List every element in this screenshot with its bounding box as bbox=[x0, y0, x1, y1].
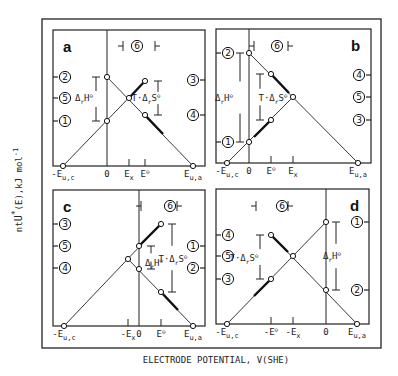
data-point bbox=[355, 160, 360, 165]
data-point bbox=[104, 74, 109, 79]
panel-letter: a bbox=[63, 38, 72, 55]
math-label: -Eu,c bbox=[215, 166, 239, 179]
highlighted-segment bbox=[254, 279, 271, 296]
data-point bbox=[224, 160, 229, 165]
circled-number-label: 4 bbox=[190, 110, 196, 120]
data-point bbox=[158, 289, 163, 294]
data-point bbox=[290, 253, 295, 258]
highlighted-segment bbox=[271, 74, 289, 93]
math-label: -Eu,c bbox=[52, 329, 76, 342]
data-point bbox=[323, 219, 328, 224]
panel-letter: b bbox=[351, 37, 360, 54]
data-point bbox=[246, 139, 251, 144]
math-label: E⊖ bbox=[156, 328, 165, 340]
data-point bbox=[268, 71, 273, 76]
math-label: 0 bbox=[136, 329, 141, 339]
math-label: ΔrH⊖ bbox=[75, 92, 93, 105]
circled-number-label: 3 bbox=[225, 274, 231, 284]
data-point bbox=[190, 163, 195, 168]
circled-number-label: 4 bbox=[62, 263, 68, 273]
data-point bbox=[61, 323, 66, 328]
circled-number-label: 1 bbox=[190, 241, 196, 251]
y-axis-label: ntU*(E),kJ mol-1 bbox=[11, 148, 24, 232]
data-point bbox=[60, 163, 65, 168]
outer-frame bbox=[42, 19, 381, 348]
math-label: 0 bbox=[246, 166, 251, 176]
highlighted-segment bbox=[271, 235, 288, 252]
data-point bbox=[136, 243, 141, 248]
circled-number-label: 2 bbox=[190, 263, 196, 273]
panel-a: a625134ΔrH⊖T·ΔrS⊖-Eu,c0ExE⊖Eu,a bbox=[51, 30, 205, 182]
math-label: Eu,a bbox=[184, 169, 202, 182]
circled-number-label: 4 bbox=[225, 230, 231, 240]
math-label: -Eu,c bbox=[215, 327, 239, 340]
potential-line bbox=[249, 53, 358, 163]
math-label: ΔrH⊖ bbox=[215, 92, 233, 105]
circled-number-label: 1 bbox=[225, 137, 231, 147]
math-label: T·ΔrS⊖ bbox=[132, 92, 161, 105]
math-label: ΔrH⊖ bbox=[323, 250, 341, 263]
circled-number-label: 1 bbox=[354, 217, 360, 227]
circled-number-label: 4 bbox=[356, 70, 362, 80]
panels-group: a625134ΔrH⊖T·ΔrS⊖-Eu,c0ExE⊖Eu,ab621453Δr… bbox=[51, 29, 371, 342]
data-point bbox=[290, 94, 295, 99]
math-label: Eu,a bbox=[349, 166, 367, 179]
x-axis-label: ELECTRODE POTENTIAL, V(SHE) bbox=[143, 355, 289, 365]
circled-number-label: 2 bbox=[225, 48, 231, 58]
data-point bbox=[268, 276, 273, 281]
circled-number-label: 6 bbox=[167, 201, 173, 211]
circled-number-label: 3 bbox=[190, 75, 196, 85]
math-label: Eu,a bbox=[184, 329, 202, 342]
math-label: -Ex bbox=[120, 329, 135, 342]
math-label: Ex bbox=[124, 169, 134, 182]
data-point bbox=[158, 221, 163, 226]
math-label: 0 bbox=[323, 327, 328, 337]
data-point bbox=[268, 117, 273, 122]
data-point bbox=[104, 118, 109, 123]
circled-number-label: 3 bbox=[356, 115, 362, 125]
math-label: -Ex bbox=[285, 327, 300, 340]
data-point bbox=[323, 287, 328, 292]
math-label: T·ΔrS⊖ bbox=[159, 253, 188, 266]
panel-letter: c bbox=[63, 198, 71, 215]
circled-number-label: 1 bbox=[62, 116, 68, 126]
potential-line bbox=[227, 222, 326, 324]
data-point bbox=[136, 266, 141, 271]
data-point bbox=[142, 78, 147, 83]
data-point bbox=[142, 112, 147, 117]
math-label: E⊖ bbox=[140, 168, 149, 180]
highlighted-segment bbox=[254, 120, 271, 137]
data-point bbox=[190, 323, 195, 328]
highlighted-segment bbox=[139, 224, 161, 246]
panel-d: d645312T·ΔrS⊖ΔrH⊖-Eu,c-E⊖-Ex0Eu,a bbox=[215, 189, 369, 340]
data-point bbox=[268, 232, 273, 237]
math-label: T·ΔrS⊖ bbox=[230, 252, 259, 265]
circled-number-label: 3 bbox=[62, 219, 68, 229]
circled-number-label: 6 bbox=[274, 41, 280, 51]
math-label: Eu,a bbox=[348, 327, 366, 340]
panel-letter: d bbox=[350, 197, 359, 214]
highlighted-segment bbox=[145, 115, 163, 134]
math-label: Ex bbox=[288, 166, 298, 179]
math-label: -Eu,c bbox=[51, 169, 75, 182]
math-label: -E⊖ bbox=[264, 326, 279, 338]
data-point bbox=[246, 50, 251, 55]
data-point bbox=[126, 95, 131, 100]
highlighted-segment bbox=[161, 292, 178, 310]
circled-number-label: 6 bbox=[279, 201, 285, 211]
panel-c: c635412ΔrH⊖T·ΔrS⊖-Eu,c-Ex0E⊖Eu,a bbox=[52, 190, 205, 342]
math-label: 0 bbox=[104, 169, 109, 179]
math-label: E⊖ bbox=[266, 165, 275, 177]
data-point bbox=[224, 321, 229, 326]
circled-number-label: 6 bbox=[134, 41, 140, 51]
circled-number-label: 2 bbox=[354, 285, 360, 295]
circled-number-label: 5 bbox=[356, 92, 362, 102]
data-point bbox=[125, 256, 130, 261]
circled-number-label: 5 bbox=[62, 93, 68, 103]
circled-number-label: 2 bbox=[62, 72, 68, 82]
panel-b: b621453ΔrH⊖T·ΔrS⊖-Eu,c0E⊖ExEu,a bbox=[215, 29, 371, 179]
circled-number-label: 5 bbox=[62, 241, 68, 251]
y-axis-label-text: ntU*(E),kJ mol-1 bbox=[11, 148, 24, 232]
math-label: T·ΔrS⊖ bbox=[259, 92, 288, 105]
data-point bbox=[354, 321, 359, 326]
